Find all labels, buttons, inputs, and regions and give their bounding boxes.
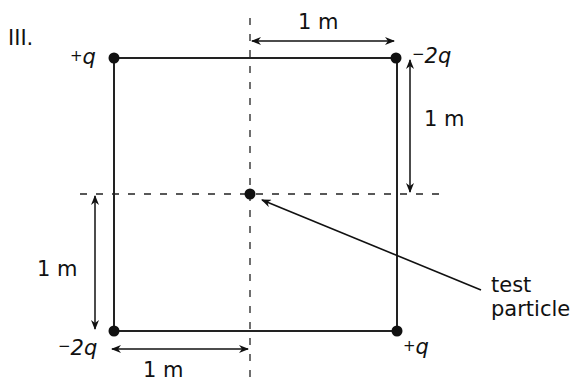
charge-label-top-left: +q — [70, 45, 96, 69]
top-dimension-label: 1 m — [298, 10, 339, 34]
charge-bottom-right — [392, 326, 403, 337]
figure-label: III. — [8, 26, 33, 50]
charge-top-left — [109, 53, 120, 64]
test-particle-label-line2: particle — [491, 297, 570, 321]
bottom-dimension-label: 1 m — [143, 358, 184, 381]
charge-label-bottom-left: −2q — [58, 336, 97, 360]
charge-square-diagram: III. +q −2q −2q +q 1 m 1 m 1 m 1 m test … — [0, 0, 582, 381]
charge-top-right — [391, 53, 402, 64]
test-particle-label-line1: test — [491, 273, 531, 297]
charge-label-bottom-right: +q — [403, 335, 429, 359]
right-dimension-label: 1 m — [424, 107, 465, 131]
charge-bottom-left — [109, 326, 120, 337]
test-particle-dot — [245, 189, 256, 200]
left-dimension-label: 1 m — [37, 257, 78, 281]
charge-label-top-right: −2q — [412, 44, 451, 68]
test-particle-pointer-arrow — [262, 200, 481, 290]
